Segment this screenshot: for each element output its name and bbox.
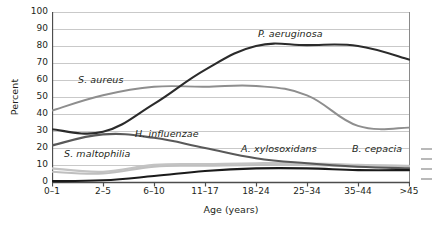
y-tick-label: 70 <box>14 58 48 67</box>
y-tick-label: 50 <box>14 92 48 101</box>
series-label-s-aureus: S. aureus <box>78 74 124 85</box>
x-tick-label: 0–1 <box>44 186 60 196</box>
y-tick-label: 20 <box>14 143 48 152</box>
x-axis-title: Age (years) <box>52 204 410 215</box>
series-line-p-aeruginosa <box>52 44 409 134</box>
y-tick-label: 40 <box>14 109 48 118</box>
y-tick-label: 0 <box>14 177 48 186</box>
bleed-line <box>421 148 432 150</box>
page-bleed-artifact <box>421 148 435 208</box>
series-label-h-influenzae: H. influenzae <box>135 128 199 139</box>
x-tick-label: 11–17 <box>191 186 218 196</box>
bleed-line <box>421 168 432 170</box>
y-tick-label: 10 <box>14 160 48 169</box>
x-tick-label: 2–5 <box>95 186 111 196</box>
y-tick-label: 30 <box>14 126 48 135</box>
series-line-b-cepacia <box>52 168 409 181</box>
bleed-line <box>421 158 432 160</box>
series-line-s-aureus <box>52 85 409 129</box>
x-tick-label: 35–44 <box>344 186 371 196</box>
x-tick-label: >45 <box>400 186 419 196</box>
chart-svg <box>52 12 410 196</box>
series-label-a-xylosoxidans: A. xylosoxidans <box>241 143 317 154</box>
y-axis-tick-labels: 0102030405060708090100 <box>14 0 48 228</box>
y-tick-label: 90 <box>14 24 48 33</box>
series-label-b-cepacia: B. cepacia <box>352 143 402 154</box>
series-label-p-aeruginosa: P. aeruginosa <box>258 28 323 39</box>
x-axis-tick-labels: 0–12–56–1011–1718–2425–3435–44>45 <box>52 186 410 202</box>
y-tick-label: 80 <box>14 41 48 50</box>
y-tick-label: 100 <box>14 7 48 16</box>
chart-figure: Percent 0102030405060708090100 0–12–56–1… <box>0 0 435 228</box>
x-tick-label: 18–24 <box>242 186 269 196</box>
series-label-s-maltophilia: S. maltophilia <box>64 148 131 159</box>
x-tick-label: 6–10 <box>143 186 165 196</box>
y-tick-label: 60 <box>14 75 48 84</box>
bleed-line <box>421 178 432 180</box>
x-tick-label: 25–34 <box>293 186 320 196</box>
